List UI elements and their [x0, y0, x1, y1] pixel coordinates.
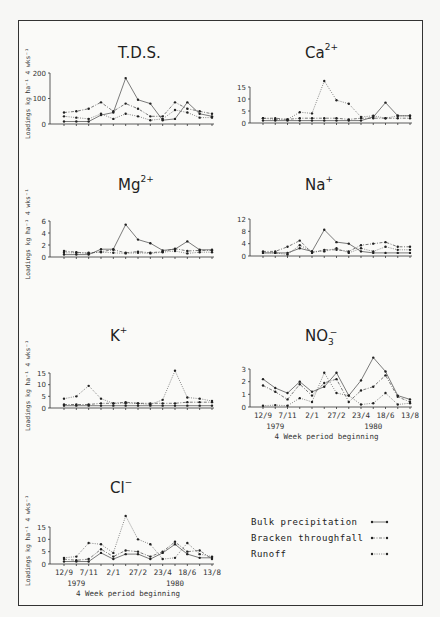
data-point: [323, 250, 325, 252]
data-point: [149, 242, 151, 244]
year-label: 1979: [67, 579, 85, 588]
data-point: [100, 404, 102, 406]
legend-item-bulk-precipitation: Bulk precipitation: [251, 517, 388, 527]
panel-title: T.D.S.: [117, 44, 161, 62]
panel-title: Cl−: [110, 477, 132, 497]
data-point: [335, 378, 337, 380]
legend: Bulk precipitationBracken throughfallRun…: [251, 517, 388, 559]
data-point: [211, 555, 213, 557]
data-point: [335, 99, 337, 101]
data-point: [360, 244, 362, 246]
data-point: [299, 383, 301, 385]
data-point: [174, 402, 176, 404]
data-point: [137, 252, 139, 254]
data-point: [100, 402, 102, 404]
data-point: [186, 101, 188, 103]
data-point: [274, 404, 276, 406]
data-point: [348, 103, 350, 105]
data-point: [323, 80, 325, 82]
data-point: [161, 550, 163, 552]
data-point: [112, 110, 114, 112]
y-tick-label: 200: [33, 70, 46, 78]
y-tick-label: 0: [242, 253, 246, 261]
data-point: [174, 543, 176, 545]
data-point: [124, 223, 126, 225]
legend-item-runoff: Runoff: [251, 549, 388, 559]
data-point: [198, 397, 200, 399]
data-point: [75, 559, 77, 561]
data-point: [198, 553, 200, 555]
data-point: [112, 404, 114, 406]
data-point: [186, 252, 188, 254]
data-point: [360, 250, 362, 252]
data-point: [161, 558, 163, 560]
data-point: [63, 560, 65, 562]
data-point: [348, 242, 350, 244]
data-point: [335, 372, 337, 374]
data-point: [348, 118, 350, 120]
y-axis-label: Loadings kg ha⁻¹ 4 wks⁻¹: [24, 495, 32, 586]
data-point: [149, 543, 151, 545]
data-point: [149, 115, 151, 117]
data-point: [112, 118, 114, 120]
data-point: [211, 113, 213, 115]
data-point: [360, 403, 362, 405]
data-point: [174, 557, 176, 559]
data-point: [124, 404, 126, 406]
data-point: [384, 370, 386, 372]
data-point: [323, 382, 325, 384]
data-point: [124, 515, 126, 517]
data-point: [299, 119, 301, 121]
y-tick-label: 0: [42, 561, 46, 569]
data-point: [63, 115, 65, 117]
data-point: [409, 246, 411, 248]
data-point: [75, 110, 77, 112]
data-point: [149, 119, 151, 121]
y-tick-label: 0: [42, 254, 46, 262]
data-point: [372, 242, 374, 244]
y-tick-label: 10: [37, 381, 46, 389]
data-point: [100, 248, 102, 250]
data-point: [198, 110, 200, 112]
data-point: [174, 404, 176, 406]
data-point: [137, 550, 139, 552]
data-point: [311, 112, 313, 114]
series-bulk-precipitation: [64, 544, 212, 561]
data-point: [198, 401, 200, 403]
y-tick-label: 10: [37, 536, 46, 544]
data-point: [174, 247, 176, 249]
data-point: [161, 404, 163, 406]
data-point: [75, 555, 77, 557]
data-point: [274, 118, 276, 120]
data-point: [112, 555, 114, 557]
series-runoff: [64, 371, 212, 405]
x-tick-label: 2/1: [305, 411, 319, 420]
x-tick-label: 27/2: [327, 411, 345, 420]
data-point: [87, 560, 89, 562]
y-tick-label: 100: [33, 95, 46, 103]
series-runoff: [64, 110, 212, 120]
data-point: [311, 119, 313, 121]
data-point: [211, 400, 213, 402]
data-point: [299, 247, 301, 249]
x-tick-label: 12/9: [55, 568, 73, 577]
y-tick-label: 0: [242, 404, 246, 412]
data-point: [186, 108, 188, 110]
data-point: [397, 246, 399, 248]
data-point: [397, 403, 399, 405]
data-point: [63, 557, 65, 559]
data-point: [384, 117, 386, 119]
data-point: [149, 252, 151, 254]
data-point: [384, 101, 386, 103]
data-point: [149, 555, 151, 557]
y-tick-label: 6: [42, 218, 47, 226]
x-tick-label: 18/6: [178, 568, 197, 577]
data-point: [335, 247, 337, 249]
data-point: [311, 250, 313, 252]
data-point: [323, 117, 325, 119]
data-point: [112, 252, 114, 254]
x-tick-label: 23/4: [352, 411, 371, 420]
data-point: [149, 403, 151, 405]
data-point: [100, 543, 102, 545]
data-point: [360, 116, 362, 118]
